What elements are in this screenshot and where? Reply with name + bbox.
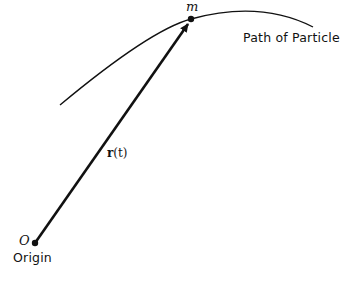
origin-symbol: O [19,233,30,248]
origin-dot [32,240,38,246]
mass-label: m [186,0,198,14]
vector-argument: (t) [113,146,127,160]
position-vector-arrow [35,24,188,243]
origin-label: Origin [13,250,52,265]
vector-label: r(t) [107,146,128,160]
position-vector-diagram: m Path of Particle r(t) O Origin [0,0,356,283]
path-label: Path of Particle [243,30,340,45]
particle-dot [188,16,194,22]
